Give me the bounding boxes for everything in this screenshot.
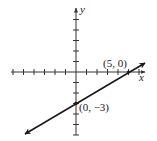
y-axis-label: y <box>79 3 85 15</box>
x-axis-label: x <box>138 71 144 83</box>
graphed-line <box>25 63 145 134</box>
point-y-intercept <box>74 102 78 106</box>
label-y-intercept: (0, −3) <box>79 101 109 114</box>
coordinate-graph: x y (5, 0) (0, −3) <box>0 0 157 141</box>
point-x-intercept <box>127 70 130 73</box>
label-x-intercept: (5, 0) <box>103 57 127 70</box>
